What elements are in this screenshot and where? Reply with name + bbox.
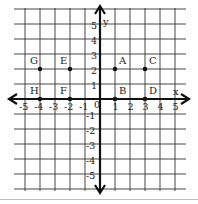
point-label: A xyxy=(118,55,127,66)
x-tick-label: 2 xyxy=(128,101,134,112)
point-label: B xyxy=(119,85,126,96)
coordinate-plane: xy-5-4-3-2-112345012345-1-2-3-4-5 ABCDEF… xyxy=(0,0,198,200)
point-marker-icon xyxy=(143,67,148,72)
plotted-points: ABCDEFGH xyxy=(30,55,157,101)
y-tick-label: -5 xyxy=(86,170,95,181)
point-marker-icon xyxy=(38,67,43,72)
x-tick-label: -5 xyxy=(19,101,28,112)
y-tick-label: 2 xyxy=(91,65,97,76)
point-marker-icon xyxy=(143,97,148,102)
point-marker-icon xyxy=(113,67,118,72)
point-marker-icon xyxy=(38,97,43,102)
y-tick-label: 1 xyxy=(91,80,97,91)
y-tick-label: -4 xyxy=(86,155,95,166)
x-tick-label: -4 xyxy=(34,101,43,112)
point-marker-icon xyxy=(68,97,73,102)
point-label: C xyxy=(149,55,157,66)
point-marker-icon xyxy=(68,67,73,72)
x-tick-label: 5 xyxy=(173,101,179,112)
y-tick-label: 4 xyxy=(91,35,97,46)
x-tick-label: 3 xyxy=(143,101,149,112)
y-tick-label: -1 xyxy=(86,110,95,121)
point-label: E xyxy=(60,55,67,66)
bottom-divider xyxy=(0,199,198,200)
y-tick-label: 5 xyxy=(91,20,97,31)
point-label: D xyxy=(149,85,157,96)
x-axis-label: x xyxy=(173,86,179,97)
y-tick-label: -3 xyxy=(86,140,95,151)
x-tick-label: 1 xyxy=(113,101,119,112)
y-tick-label: 3 xyxy=(91,50,97,61)
y-axis-label: y xyxy=(102,16,109,27)
x-tick-label: -3 xyxy=(49,101,58,112)
point-label: F xyxy=(60,85,67,96)
point-marker-icon xyxy=(113,97,118,102)
x-tick-label: 4 xyxy=(158,101,164,112)
x-tick-label: -2 xyxy=(64,101,73,112)
point-label: G xyxy=(30,55,38,66)
point-label: H xyxy=(30,85,39,96)
y-tick-label: -2 xyxy=(86,125,95,136)
origin-label: 0 xyxy=(94,99,100,110)
